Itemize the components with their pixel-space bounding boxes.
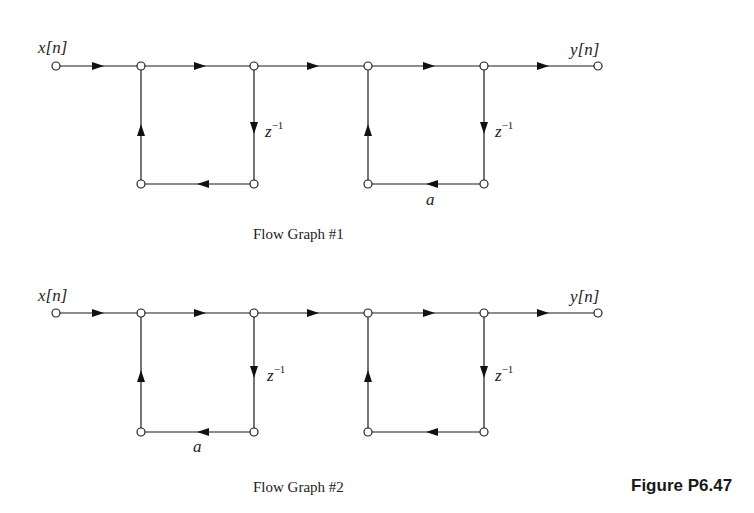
node (364, 428, 372, 436)
output-node (594, 309, 602, 317)
output-node (594, 62, 602, 70)
node (250, 309, 258, 317)
flow-graph-2: x[n] y[n] z−1 z−1 a Flow Graph #2 (37, 286, 602, 495)
input-label: x[n] (37, 38, 67, 57)
arrow-up-icon (137, 370, 145, 382)
arrow-right-icon (537, 309, 549, 317)
node (137, 309, 145, 317)
figure-label: Figure P6.47 (631, 476, 732, 495)
node (480, 62, 488, 70)
delay-label-1: z−1 (264, 119, 283, 141)
input-node (52, 62, 60, 70)
arrow-left-icon (197, 180, 209, 188)
node (480, 309, 488, 317)
arrow-right-icon (92, 62, 104, 70)
gain-label: a (426, 190, 435, 209)
output-label: y[n] (568, 40, 599, 59)
arrow-up-icon (364, 124, 372, 136)
arrow-right-icon (92, 309, 104, 317)
arrow-right-icon (423, 62, 435, 70)
arrow-right-icon (307, 309, 319, 317)
arrow-up-icon (137, 124, 145, 136)
node (364, 62, 372, 70)
arrow-down-icon (480, 366, 488, 378)
flow-graphs-figure: x[n] y[n] z−1 z−1 a Flow Graph #1 (0, 0, 754, 513)
caption-flow-graph-1: Flow Graph #1 (253, 226, 344, 242)
arrow-down-icon (480, 122, 488, 134)
input-node (52, 309, 60, 317)
delay-label-1: z−1 (266, 363, 285, 385)
node (250, 62, 258, 70)
node (250, 428, 258, 436)
node (137, 62, 145, 70)
node (137, 180, 145, 188)
node (250, 180, 258, 188)
node (364, 309, 372, 317)
delay-label-2: z−1 (494, 119, 513, 141)
arrow-right-icon (194, 62, 206, 70)
arrow-right-icon (194, 309, 206, 317)
arrow-down-icon (250, 122, 258, 134)
node (480, 428, 488, 436)
arrow-left-icon (426, 428, 438, 436)
arrow-left-icon (197, 428, 209, 436)
node (480, 180, 488, 188)
arrow-right-icon (423, 309, 435, 317)
delay-label-2: z−1 (494, 363, 513, 385)
flow-graph-1: x[n] y[n] z−1 z−1 a Flow Graph #1 (37, 38, 602, 242)
node (364, 180, 372, 188)
arrow-right-icon (537, 62, 549, 70)
output-label: y[n] (568, 287, 599, 306)
arrow-right-icon (307, 62, 319, 70)
gain-label: a (193, 437, 202, 456)
arrow-left-icon (426, 180, 438, 188)
arrow-up-icon (364, 370, 372, 382)
node (137, 428, 145, 436)
caption-flow-graph-2: Flow Graph #2 (253, 479, 344, 495)
input-label: x[n] (37, 286, 67, 305)
arrow-down-icon (250, 366, 258, 378)
